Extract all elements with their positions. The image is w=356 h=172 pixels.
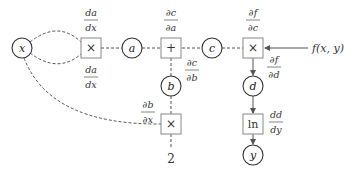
edge-x-mul1-top — [30, 31, 81, 42]
frac-num: da — [85, 64, 97, 75]
frac-num: ∂f — [249, 7, 259, 18]
op-ln-label: ln — [248, 118, 259, 131]
frac-den: dy — [270, 124, 282, 135]
op-mul3-label: × — [166, 117, 176, 131]
frac-den: ∂b — [187, 72, 198, 83]
deriv-dc-db: ∂c ∂b — [185, 57, 199, 83]
deriv-df-dd: ∂f ∂d — [267, 54, 281, 80]
node-x-label: x — [19, 42, 26, 55]
deriv-da-dx-top: da dx — [84, 7, 98, 33]
node-a-label: a — [129, 42, 136, 55]
frac-num: ∂c — [166, 7, 177, 18]
frac-num: ∂c — [187, 57, 198, 68]
frac-num: ∂b — [143, 99, 154, 110]
frac-num: dd — [270, 109, 282, 120]
frac-den: ∂a — [166, 22, 177, 33]
node-d-label: d — [249, 80, 256, 93]
node-y-label: y — [249, 149, 257, 162]
deriv-df-dc: ∂f ∂c — [246, 7, 260, 33]
node-b-label: b — [167, 80, 174, 93]
op-add-label: + — [166, 41, 176, 55]
const-2-label: 2 — [167, 152, 175, 166]
output-label: f(x, y) — [311, 42, 344, 55]
deriv-db-dx: ∂b ∂x — [141, 99, 155, 125]
frac-num: da — [85, 7, 97, 18]
op-mul1-label: × — [86, 41, 96, 55]
op-mul2-label: × — [248, 41, 258, 55]
computational-graph: x a c b d y 2 × + × × ln f(x, y) da dx d… — [0, 0, 356, 172]
frac-den: ∂c — [248, 22, 259, 33]
frac-den: dx — [85, 22, 97, 33]
deriv-dd-dy: dd dy — [269, 109, 283, 135]
frac-den: dx — [85, 79, 97, 90]
node-c-label: c — [209, 42, 215, 55]
frac-den: ∂x — [143, 114, 154, 125]
frac-den: ∂d — [269, 69, 280, 80]
deriv-da-dx-bottom: da dx — [84, 64, 98, 90]
edge-x-mul1-bottom — [30, 53, 81, 64]
deriv-dc-da: ∂c ∂a — [164, 7, 178, 33]
frac-num: ∂f — [270, 54, 280, 65]
